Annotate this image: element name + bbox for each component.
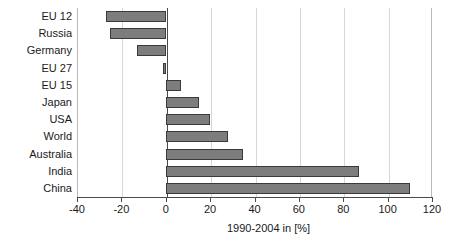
bar (166, 166, 359, 177)
category-label: World (0, 131, 72, 142)
x-tick-label: 40 (235, 203, 275, 216)
x-tick-label: 0 (146, 203, 186, 216)
x-tick-mark (121, 197, 122, 202)
category-label: USA (0, 114, 72, 125)
x-tick-label: 60 (279, 203, 319, 216)
x-tick-mark (388, 197, 389, 202)
bar (166, 97, 199, 108)
x-tick-mark (343, 197, 344, 202)
bar (166, 149, 244, 160)
x-tick-mark (299, 197, 300, 202)
x-tick-label: 80 (323, 203, 363, 216)
bar (106, 11, 166, 22)
x-tick-label: 120 (412, 203, 452, 216)
bar-chart: -40-20020406080100120 EU 12RussiaGermany… (0, 0, 460, 251)
category-label: China (0, 183, 72, 194)
x-tick-label: 20 (190, 203, 230, 216)
category-label: Australia (0, 149, 72, 160)
bar (137, 45, 166, 56)
category-label: EU 15 (0, 80, 72, 91)
category-label: India (0, 166, 72, 177)
x-axis-title: 1990-2004 in [%] (0, 222, 460, 234)
category-label: Germany (0, 45, 72, 56)
bar (166, 80, 182, 91)
x-tick-label: -20 (101, 203, 141, 216)
category-label: Russia (0, 28, 72, 39)
bar (163, 63, 166, 74)
x-tick-mark (255, 197, 256, 202)
category-label: EU 12 (0, 11, 72, 22)
category-label: EU 27 (0, 63, 72, 74)
x-tick-mark (432, 197, 433, 202)
category-label: Japan (0, 97, 72, 108)
bar (166, 131, 228, 142)
x-tick-label: 100 (368, 203, 408, 216)
x-tick-mark (210, 197, 211, 202)
y-axis-category-labels: EU 12RussiaGermanyEU 27EU 15JapanUSAWorl… (0, 0, 72, 251)
x-tick-mark (166, 197, 167, 202)
bar (110, 28, 165, 39)
x-tick-mark (77, 197, 78, 202)
bar (166, 183, 410, 194)
bar (166, 114, 210, 125)
